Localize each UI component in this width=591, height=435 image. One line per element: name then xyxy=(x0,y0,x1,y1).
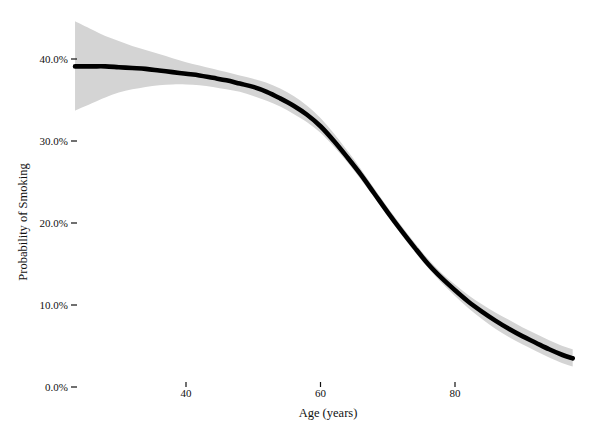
y-tick-label: 0.0% xyxy=(45,381,68,393)
x-tick-label: 60 xyxy=(315,387,327,399)
y-tick-label: 20.0% xyxy=(40,217,68,229)
y-tick-label: 10.0% xyxy=(40,299,68,311)
y-tick-label: 40.0% xyxy=(40,53,68,65)
x-axis-title: Age (years) xyxy=(299,406,358,420)
y-tick-label: 30.0% xyxy=(40,135,68,147)
x-tick-label: 80 xyxy=(450,387,462,399)
smoking-probability-chart: 0.0%10.0%20.0%30.0%40.0% 406080 Age (yea… xyxy=(0,0,591,435)
chart-container: 0.0%10.0%20.0%30.0%40.0% 406080 Age (yea… xyxy=(0,0,591,435)
x-tick-label: 40 xyxy=(181,387,193,399)
y-axis-title: Probability of Smoking xyxy=(16,163,30,281)
